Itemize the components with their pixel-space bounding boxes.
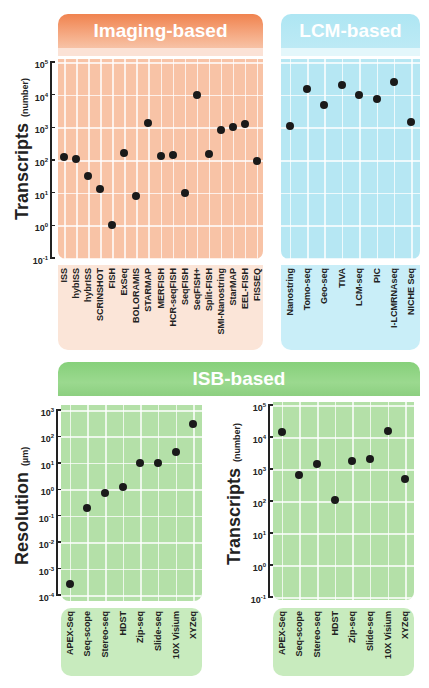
x-tick-label: APEX-Seq (65, 611, 75, 688)
grid-line-vertical (136, 59, 138, 259)
x-tick-label: hybrISS (83, 268, 93, 348)
data-point (331, 496, 339, 504)
isb-header: ISB-based (58, 362, 420, 396)
x-tick-label: StarMAP (228, 268, 238, 348)
x-tick-label: XYZeq (188, 611, 198, 688)
data-point (303, 85, 311, 93)
grid-line-vertical (70, 405, 72, 601)
x-tick-label: HDST (118, 611, 128, 688)
grid-line-horizontal (58, 95, 263, 97)
data-point (253, 157, 261, 165)
data-point (205, 150, 213, 158)
y-axis-title: Transcripts(number) (224, 423, 245, 565)
x-tick-label: ExSeq (119, 268, 129, 348)
data-point (119, 483, 127, 491)
x-tick-label: Tomo-seq (302, 268, 312, 348)
y-axis-tick (56, 436, 61, 438)
grid-line-vertical (233, 59, 235, 259)
x-tick-label: 10X Visium (171, 611, 181, 688)
y-tick-label: 105 (236, 400, 266, 413)
x-tick-label: SMI-Nanostring (216, 268, 226, 348)
y-axis-unit: (number) (232, 423, 242, 462)
y-axis-tick (50, 94, 55, 96)
grid-line-horizontal (281, 95, 420, 97)
x-tick-label: Stereo-seq (100, 611, 110, 688)
y-axis-tick (56, 489, 61, 491)
x-tick-label: Slide-seq (365, 611, 375, 688)
x-tick-label: FISH (107, 268, 117, 348)
grid-line-vertical (209, 59, 211, 259)
grid-line-horizontal (61, 489, 202, 491)
grid-line-horizontal (273, 469, 414, 471)
x-tick-label: Split-FISH (204, 268, 214, 348)
data-point (193, 91, 201, 99)
grid-line-vertical (411, 59, 413, 259)
y-axis-tick (268, 436, 273, 438)
y-axis-tick (56, 568, 61, 570)
data-point (407, 118, 415, 126)
grid-line-vertical (290, 59, 292, 259)
grid-line-horizontal (58, 62, 263, 64)
lcm-header: LCM-based (281, 14, 420, 48)
data-point (172, 448, 180, 456)
y-axis-tick (268, 564, 273, 566)
grid-line-horizontal (273, 565, 414, 567)
data-point (320, 101, 328, 109)
grid-line-horizontal (281, 225, 420, 227)
data-point (169, 151, 177, 159)
grid-line-horizontal (58, 193, 263, 195)
data-point (154, 459, 162, 467)
x-tick-label: HDST (330, 611, 340, 688)
y-tick-label: 100 (18, 220, 48, 233)
grid-line-horizontal (281, 160, 420, 162)
imaging-header: Imaging-based (58, 14, 263, 48)
data-point (189, 420, 197, 428)
x-tick-label: Nanostring (285, 268, 295, 348)
y-tick-label: 10-1 (18, 253, 48, 266)
grid-line-vertical (377, 59, 379, 259)
y-axis-title-text: Transcripts (12, 123, 32, 220)
x-tick-label: SeqFISH (180, 268, 190, 348)
y-axis-tick (268, 404, 273, 406)
y-tick-label: 103 (24, 405, 54, 418)
grid-line-horizontal (281, 258, 420, 259)
x-tick-label: EEL-FISH (240, 268, 250, 348)
x-tick-label: Zip-seq (135, 611, 145, 688)
data-point (401, 475, 409, 483)
x-tick-label: FISSEQ (252, 268, 262, 348)
lcm-plot-area (281, 59, 420, 259)
grid-line-vertical (87, 405, 89, 601)
grid-line-vertical (359, 59, 361, 259)
y-axis-tick (268, 500, 273, 502)
lcm-header-band (281, 48, 420, 56)
grid-line-horizontal (273, 437, 414, 439)
x-tick-label: XYZeq (400, 611, 410, 688)
grid-line-vertical (173, 59, 175, 259)
y-axis-unit: (number) (20, 78, 30, 117)
y-tick-label: 105 (18, 57, 48, 70)
isb-resolution-plot-area (61, 405, 202, 601)
data-point (338, 81, 346, 89)
y-axis-tick (56, 409, 61, 411)
grid-line-vertical (197, 59, 199, 259)
grid-line-vertical (100, 59, 102, 259)
imaging-header-band (58, 48, 263, 56)
grid-line-vertical (112, 59, 114, 259)
y-tick-label: 10-1 (236, 592, 266, 605)
x-tick-label: hybISS (71, 268, 81, 348)
grid-line-horizontal (61, 436, 202, 438)
grid-line-horizontal (58, 225, 263, 227)
y-axis-title-text: Resolution (12, 472, 32, 565)
isb-title: ISB-based (193, 368, 286, 389)
x-tick-label: LCM-seq (354, 268, 364, 348)
grid-line-vertical (185, 59, 187, 259)
grid-line-vertical (176, 405, 178, 601)
grid-line-vertical (105, 405, 107, 601)
y-axis-tick (50, 127, 55, 129)
x-tick-label: Seq-scope (294, 611, 304, 688)
y-axis-tick (268, 596, 273, 598)
y-axis-tick (50, 192, 55, 194)
y-axis-title: Resolution(µm) (12, 447, 33, 565)
grid-line-horizontal (61, 542, 202, 544)
grid-line-vertical (140, 405, 142, 601)
